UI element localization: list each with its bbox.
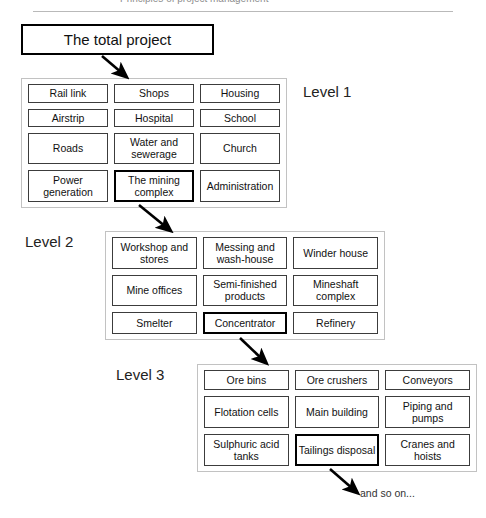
level-3-caption: Level 3 [116, 366, 164, 383]
node-label: Shops [139, 87, 169, 99]
node-label: Conveyors [403, 374, 453, 386]
node-label: Piping and pumps [388, 400, 467, 424]
node-label: Ore crushers [307, 374, 368, 386]
arrow-mining-to-level-2 [139, 205, 166, 227]
node-label: Concentrator [215, 317, 276, 329]
arrow-concentrator-to-level-3 [240, 338, 262, 359]
level-3-group: Ore binsOre crushersConveyorsFlotation c… [197, 364, 477, 472]
node-concentrator[interactable]: Concentrator [203, 312, 288, 334]
node-water-and-sewerage[interactable]: Water and sewerage [114, 133, 194, 164]
node-label: Mineshaft complex [296, 278, 375, 302]
node-winder-house[interactable]: Winder house [293, 237, 378, 269]
arrow-tailings-to-note [330, 469, 353, 489]
level-1-caption: Level 1 [303, 83, 351, 100]
level-2-group: Workshop and storesMessing and wash-hous… [105, 231, 385, 340]
node-conveyors[interactable]: Conveyors [385, 370, 470, 390]
node-label: Tailings disposal [299, 444, 375, 456]
node-label: Messing and wash-house [206, 241, 285, 265]
node-main-building[interactable]: Main building [295, 396, 380, 428]
node-label: Power generation [31, 174, 105, 198]
node-label: Hospital [135, 112, 173, 124]
node-church[interactable]: Church [200, 133, 280, 164]
node-semi-finished-products[interactable]: Semi-finished products [203, 275, 288, 307]
node-label: Sulphuric acid tanks [207, 438, 286, 462]
node-label: Winder house [303, 247, 368, 259]
node-smelter[interactable]: Smelter [112, 312, 197, 334]
node-label: Water and sewerage [117, 136, 191, 160]
node-administration[interactable]: Administration [200, 170, 280, 203]
node-school[interactable]: School [200, 109, 280, 128]
node-refinery[interactable]: Refinery [293, 312, 378, 334]
node-sulphuric-acid-tanks[interactable]: Sulphuric acid tanks [204, 434, 289, 466]
node-power-generation[interactable]: Power generation [28, 170, 108, 203]
node-label: Administration [207, 180, 274, 192]
node-piping-and-pumps[interactable]: Piping and pumps [385, 396, 470, 428]
node-housing[interactable]: Housing [200, 84, 280, 103]
node-label: The mining complex [118, 174, 190, 198]
node-label: Refinery [316, 317, 355, 329]
node-the-mining-complex[interactable]: The mining complex [114, 170, 194, 203]
root-node-label: The total project [64, 31, 172, 48]
node-label: Mine offices [126, 284, 182, 296]
node-label: Church [223, 142, 257, 154]
page-header-text-cropped: Principles of project management [120, 0, 380, 5]
node-label: Flotation cells [214, 406, 278, 418]
diagram-canvas: Principles of project management The tot… [0, 0, 486, 518]
level-2-caption: Level 2 [25, 233, 73, 250]
node-label: Ore bins [226, 374, 266, 386]
node-label: Roads [53, 142, 83, 154]
node-messing-and-wash-house[interactable]: Messing and wash-house [203, 237, 288, 269]
node-tailings-disposal[interactable]: Tailings disposal [295, 434, 380, 466]
node-mine-offices[interactable]: Mine offices [112, 275, 197, 307]
page-header-rule [33, 11, 453, 12]
node-workshop-and-stores[interactable]: Workshop and stores [112, 237, 197, 269]
node-label: Workshop and stores [115, 241, 194, 265]
node-roads[interactable]: Roads [28, 133, 108, 164]
node-label: Smelter [136, 317, 172, 329]
level-1-grid: Rail linkShopsHousingAirstripHospitalSch… [28, 84, 280, 202]
node-shops[interactable]: Shops [114, 84, 194, 103]
node-flotation-cells[interactable]: Flotation cells [204, 396, 289, 428]
node-airstrip[interactable]: Airstrip [28, 109, 108, 128]
root-node-total-project[interactable]: The total project [21, 24, 214, 55]
node-label: Airstrip [52, 112, 85, 124]
node-rail-link[interactable]: Rail link [28, 84, 108, 103]
level-2-grid: Workshop and storesMessing and wash-hous… [112, 237, 378, 334]
node-hospital[interactable]: Hospital [114, 109, 194, 128]
level-1-group: Rail linkShopsHousingAirstripHospitalSch… [21, 78, 287, 208]
arrow-root-to-level-1 [102, 56, 122, 73]
node-cranes-and-hoists[interactable]: Cranes and hoists [385, 434, 470, 466]
node-label: Semi-finished products [206, 278, 285, 302]
node-label: Main building [306, 406, 368, 418]
node-mineshaft-complex[interactable]: Mineshaft complex [293, 275, 378, 307]
node-label: Housing [221, 87, 260, 99]
node-label: Cranes and hoists [388, 438, 467, 462]
level-3-grid: Ore binsOre crushersConveyorsFlotation c… [204, 370, 470, 466]
node-ore-bins[interactable]: Ore bins [204, 370, 289, 390]
node-label: Rail link [50, 87, 87, 99]
node-ore-crushers[interactable]: Ore crushers [295, 370, 380, 390]
and-so-on-note: and so on... [360, 487, 415, 499]
node-label: School [224, 112, 256, 124]
